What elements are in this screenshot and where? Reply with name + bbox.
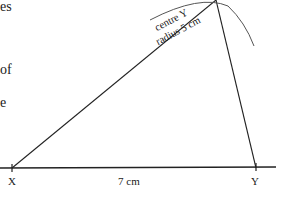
- side-y-apex: [216, 0, 256, 168]
- point-label-y: Y: [251, 176, 259, 187]
- length-label-xy: 7 cm: [118, 176, 140, 187]
- point-label-x: X: [8, 176, 16, 187]
- construction-diagram: [0, 0, 284, 198]
- baseline-xy: [0, 167, 276, 168]
